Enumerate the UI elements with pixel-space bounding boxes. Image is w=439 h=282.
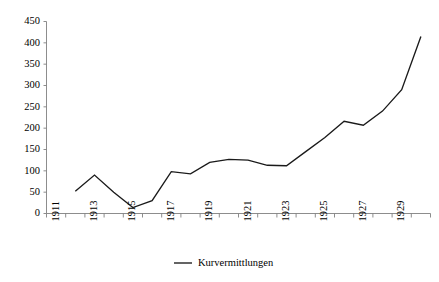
y-axis-tick-label: 0	[35, 207, 40, 218]
chart-container: 050100150200250300350400450 191119131915…	[0, 0, 439, 282]
x-axis-tick-label: 1919	[203, 201, 214, 222]
x-axis-tick-label: 1925	[318, 201, 329, 222]
y-axis-tick-label: 150	[24, 143, 40, 154]
x-axis-tick-label: 1923	[280, 201, 291, 222]
x-axis-tick-label: 1917	[165, 201, 176, 222]
y-axis-tick-label: 450	[24, 15, 40, 26]
legend-label-kurvermittlungen: Kurvermittlungen	[198, 257, 274, 268]
chart-legend: Kurvermittlungen	[174, 257, 274, 268]
x-axis-tick-label: 1911	[50, 201, 61, 222]
x-axis-tick-label: 1927	[357, 201, 368, 222]
x-axis-tick-labels: 1911191319151917191919211923192519271929	[50, 201, 407, 222]
y-axis-tick-label: 50	[30, 186, 41, 197]
series-line-kurvermittlungen	[75, 36, 421, 207]
x-axis-tick-label: 1921	[242, 201, 253, 222]
x-axis-tick-marks	[47, 214, 431, 218]
y-axis-tick-label: 300	[24, 79, 40, 90]
y-axis-tick-label: 400	[24, 37, 40, 48]
y-axis-tick-label: 350	[24, 58, 40, 69]
y-axis-tick-label: 200	[24, 122, 40, 133]
y-axis-tick-label: 100	[24, 165, 40, 176]
x-axis-tick-label: 1913	[88, 201, 99, 222]
line-chart: 050100150200250300350400450 191119131915…	[0, 0, 439, 282]
y-axis-tick-labels: 050100150200250300350400450	[24, 15, 40, 218]
x-axis-tick-label: 1929	[395, 201, 406, 222]
y-axis-tick-label: 250	[24, 101, 40, 112]
